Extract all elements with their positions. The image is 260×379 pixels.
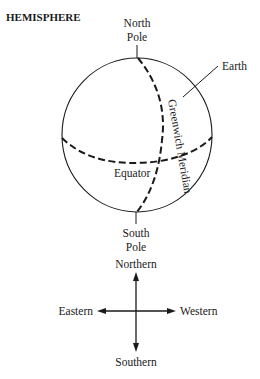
compass-northern-label: Northern	[115, 258, 157, 270]
earth-label: Earth	[222, 60, 247, 72]
greenwich-meridian-label: Greenwich Meridian	[166, 98, 194, 194]
arrow-up-icon	[133, 272, 139, 281]
compass-western-label: Western	[180, 305, 218, 317]
earth-leader-line	[183, 66, 218, 97]
compass-eastern-label: Eastern	[59, 305, 94, 317]
diagram-title: HEMISPHERE	[6, 11, 81, 23]
south-pole-label-line1: South	[123, 227, 150, 239]
arrow-down-icon	[133, 343, 139, 352]
hemisphere-compass: Northern Southern Eastern Western	[59, 258, 218, 368]
north-pole-label-line2: Pole	[127, 31, 147, 43]
arrow-right-icon	[167, 308, 176, 314]
compass-southern-label: Southern	[115, 356, 157, 368]
equator-label: Equator	[114, 167, 151, 180]
north-pole-label-line1: North	[124, 17, 151, 29]
south-pole-label-line2: Pole	[126, 241, 146, 253]
greenwich-meridian-line	[137, 58, 163, 212]
hemisphere-diagram: HEMISPHERE North Pole Earth Equator Gree…	[0, 0, 260, 379]
arrow-left-icon	[97, 308, 106, 314]
